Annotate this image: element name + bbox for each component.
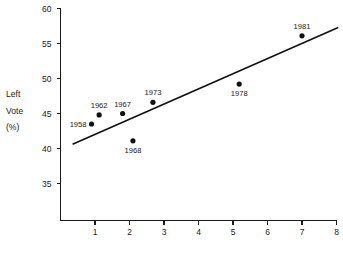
data-point <box>97 112 102 117</box>
data-point-label: 1962 <box>91 101 108 110</box>
y-axis-title-line: (%) <box>6 122 20 132</box>
y-tick-label: 35 <box>42 179 52 189</box>
trend-line <box>73 27 339 144</box>
data-point <box>89 121 94 126</box>
y-axis-title-line: Vote <box>6 106 23 116</box>
data-point-label: 1968 <box>124 146 141 155</box>
y-axis-title-line: Left <box>6 89 21 99</box>
x-tick-label: 1 <box>93 227 98 237</box>
y-tick-label: 60 <box>42 4 52 14</box>
data-point <box>130 138 135 143</box>
y-tick-label: 40 <box>42 144 52 154</box>
x-axis-ticks: 12345678 <box>93 221 340 237</box>
data-point-label: 1981 <box>294 22 311 31</box>
x-tick-label: 4 <box>196 227 201 237</box>
data-point <box>150 100 155 105</box>
data-point-label: 1973 <box>145 88 162 97</box>
data-points: 1958196219671968197319781981 <box>70 22 311 155</box>
chart-canvas: 354045505560 12345678 LeftVote(%) 195819… <box>0 0 343 262</box>
y-axis-title: LeftVote(%) <box>6 89 23 132</box>
x-tick-label: 6 <box>265 227 270 237</box>
y-tick-label: 50 <box>42 74 52 84</box>
x-tick-label: 8 <box>334 227 339 237</box>
x-tick-label: 3 <box>162 227 167 237</box>
y-tick-label: 45 <box>42 109 52 119</box>
data-point-label: 1978 <box>231 89 248 98</box>
regression-line <box>73 27 339 144</box>
data-point-label: 1967 <box>114 100 131 109</box>
y-tick-label: 55 <box>42 39 52 49</box>
data-point-label: 1958 <box>70 120 87 129</box>
x-tick-label: 7 <box>300 227 305 237</box>
axes-group <box>61 9 337 221</box>
data-point <box>299 33 304 38</box>
scatter-chart: 354045505560 12345678 LeftVote(%) 195819… <box>0 0 343 262</box>
data-point <box>237 82 242 87</box>
data-point <box>120 111 125 116</box>
y-axis-ticks: 354045505560 <box>42 4 60 189</box>
axis-lines <box>61 9 337 221</box>
x-tick-label: 5 <box>231 227 236 237</box>
x-tick-label: 2 <box>127 227 132 237</box>
